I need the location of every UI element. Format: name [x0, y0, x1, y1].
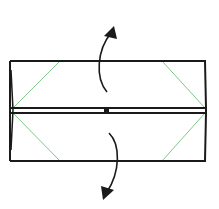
left-fold-pinch	[11, 70, 13, 150]
crease-bottom-right	[162, 113, 205, 161]
crease-bottom-left	[13, 113, 60, 161]
unfold-up-arrow-icon	[99, 26, 117, 92]
center-mark	[104, 108, 109, 113]
right-edge	[205, 61, 206, 161]
unfold-down-arrow-icon	[101, 133, 117, 200]
crease-top-left	[13, 61, 60, 108]
origami-diagram	[0, 0, 219, 209]
crease-top-right	[162, 61, 205, 108]
